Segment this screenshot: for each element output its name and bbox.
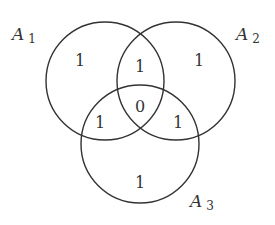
set-a1-label: A1	[10, 24, 36, 46]
region-a1-a3: 1	[95, 113, 105, 132]
region-a1-only: 1	[75, 51, 85, 70]
region-a2-a3: 1	[173, 113, 183, 132]
region-a1-a2: 1	[135, 57, 145, 76]
venn-diagram: A1 A2 A3 1 1 1 0 1 1 1	[0, 0, 275, 225]
region-a1-a2-a3: 0	[135, 97, 145, 116]
region-a3-only: 1	[135, 173, 145, 192]
region-a2-only: 1	[194, 51, 204, 70]
set-a2-label: A2	[234, 24, 260, 46]
set-a3-label: A3	[188, 191, 214, 213]
